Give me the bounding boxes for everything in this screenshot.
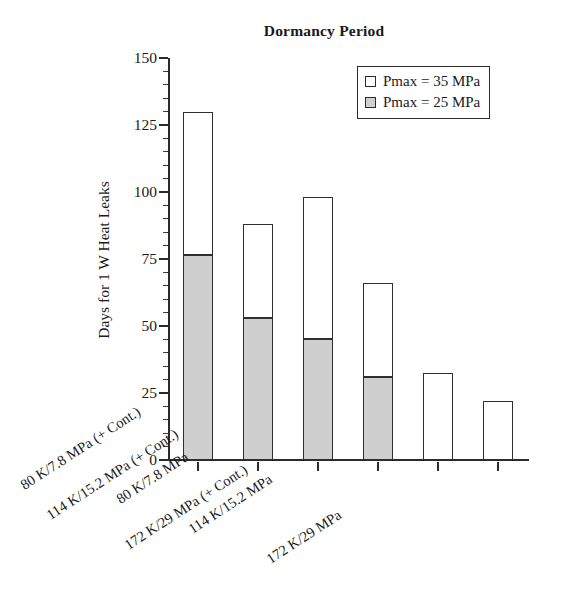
x-tick-label: 80 K/7.8 MPa (+ Cont.) — [17, 403, 143, 493]
x-tick-label: 172 K/29 MPa — [263, 507, 344, 568]
chart-figure: Dormancy Period Days for 1 W Heat Leaks … — [0, 0, 588, 608]
x-axis-tick-labels: 80 K/7.8 MPa (+ Cont.)80 K/7.8 MPa114 K/… — [0, 0, 588, 608]
